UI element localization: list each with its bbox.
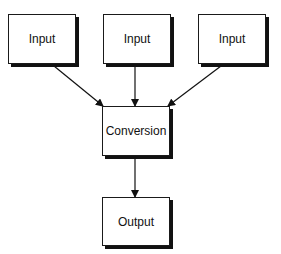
edge-input1-conversion — [54, 66, 103, 106]
input-node-2-label: Input — [124, 32, 151, 46]
input-node-1-label: Input — [29, 32, 56, 46]
input-node-3: Input — [198, 14, 266, 64]
input-node-3-label: Input — [219, 32, 246, 46]
conversion-node-label: Conversion — [106, 124, 167, 138]
output-node-label: Output — [118, 215, 154, 229]
input-node-1: Input — [8, 14, 76, 64]
output-node: Output — [102, 197, 170, 246]
input-node-2: Input — [103, 14, 171, 64]
edge-input3-conversion — [168, 66, 221, 106]
conversion-node: Conversion — [102, 106, 170, 156]
